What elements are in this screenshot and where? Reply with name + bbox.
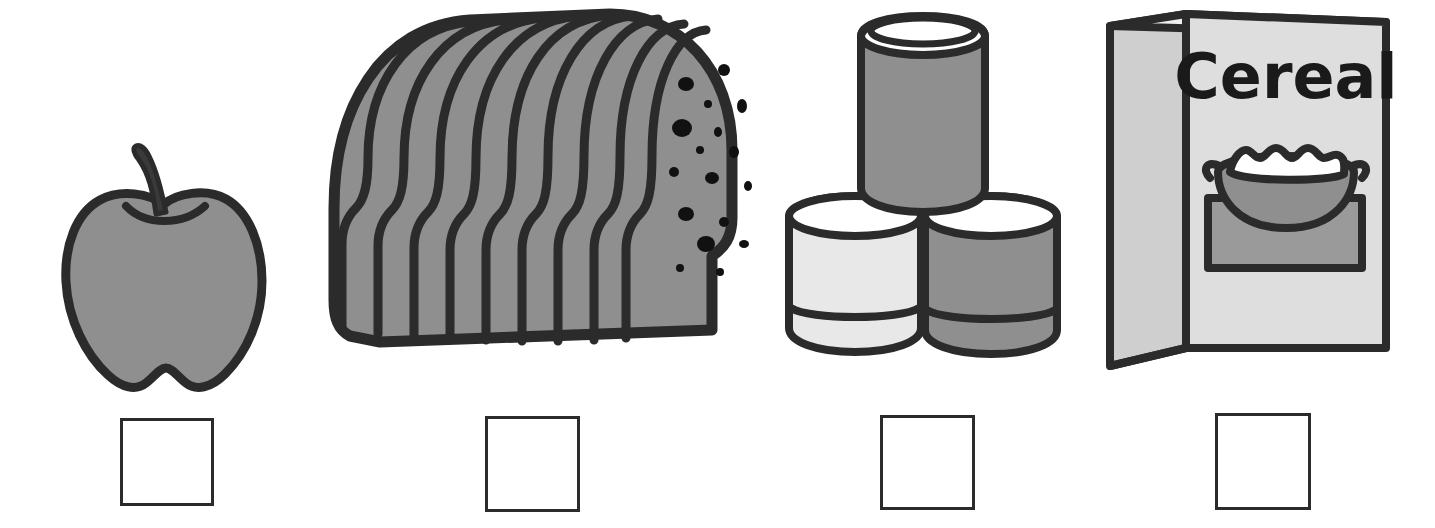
crumb-spot: [716, 268, 724, 276]
can-rim-inner: [871, 18, 975, 44]
cereal-box-brand-text: Cereal: [1174, 40, 1397, 113]
cereal-box-icon: Cereal: [1090, 0, 1435, 410]
sliced-bread-loaf-icon: [320, 0, 770, 410]
answer-box-bread[interactable]: [485, 416, 580, 512]
crumb-spot: [696, 146, 704, 154]
crumb-spot: [678, 77, 694, 91]
can-bottom-right: [925, 196, 1057, 354]
crumb-spot: [718, 64, 730, 76]
item-cans: [775, 0, 1095, 410]
crumb-spot: [678, 207, 694, 221]
crumb-spot: [729, 146, 739, 158]
stacked-cans-icon: [775, 0, 1095, 410]
crumb-spot: [697, 236, 715, 252]
answer-box-apple[interactable]: [120, 418, 214, 506]
worksheet-canvas: Cereal: [0, 0, 1435, 528]
cereal-bowl-graphic: [1206, 148, 1366, 268]
crumb-spot: [744, 181, 752, 191]
can-bottom-left: [789, 196, 921, 352]
crumb-spot: [739, 240, 749, 248]
crumb-spot: [737, 99, 747, 113]
answer-box-cereal[interactable]: [1215, 413, 1311, 510]
item-cereal: Cereal: [1090, 0, 1435, 410]
answer-box-cans[interactable]: [880, 415, 975, 510]
apple-icon: [0, 0, 330, 410]
crumb-spot: [705, 172, 719, 184]
crumb-spot: [704, 100, 712, 108]
item-apple: [0, 0, 330, 410]
crumb-spot: [676, 264, 684, 272]
crumb-spot: [719, 217, 729, 227]
item-bread: [320, 0, 770, 410]
crumb-spot: [669, 167, 679, 177]
crumb-spot: [714, 127, 722, 137]
can-top: [861, 16, 985, 212]
crumb-spot: [672, 119, 692, 137]
